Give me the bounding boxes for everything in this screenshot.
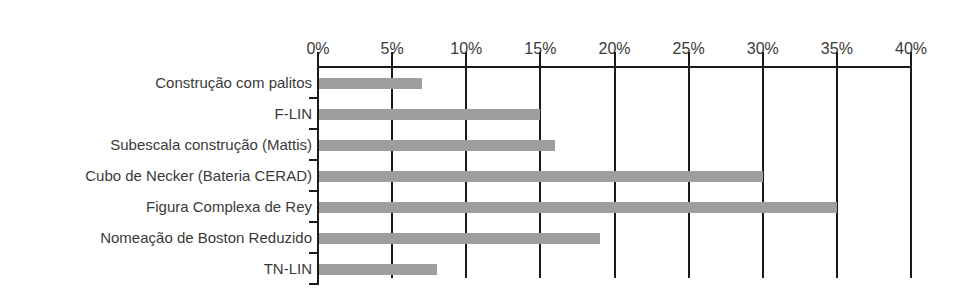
bar <box>319 78 422 89</box>
bar <box>319 202 837 213</box>
y-axis-tick <box>309 283 317 285</box>
gridline <box>688 52 690 278</box>
bar <box>319 233 600 244</box>
gridline <box>539 52 541 278</box>
bar <box>319 171 763 182</box>
bar <box>319 109 540 120</box>
gridline <box>836 52 838 278</box>
gridline <box>614 52 616 278</box>
category-label: Construção com palitos <box>155 74 312 92</box>
y-axis-tick <box>309 252 317 254</box>
y-axis-tick <box>309 128 317 130</box>
gridline <box>910 52 912 278</box>
y-axis-tick <box>309 221 317 223</box>
bar <box>319 140 555 151</box>
y-axis-tick <box>309 190 317 192</box>
category-label: Subescala construção (Mattis) <box>110 136 312 154</box>
category-label: F-LIN <box>275 105 313 123</box>
category-label: Nomeação de Boston Reduzido <box>100 229 312 247</box>
y-axis-tick <box>309 97 317 99</box>
y-axis-tick <box>309 159 317 161</box>
gridline <box>762 52 764 278</box>
category-label: Figura Complexa de Rey <box>146 198 312 216</box>
category-label: Cubo de Necker (Bateria CERAD) <box>85 167 312 185</box>
category-label: TN-LIN <box>264 260 312 278</box>
gridline <box>465 52 467 278</box>
bar <box>319 264 437 275</box>
bar-chart: 0%5%10%15%20%25%30%35%40%Construção com … <box>0 0 955 300</box>
